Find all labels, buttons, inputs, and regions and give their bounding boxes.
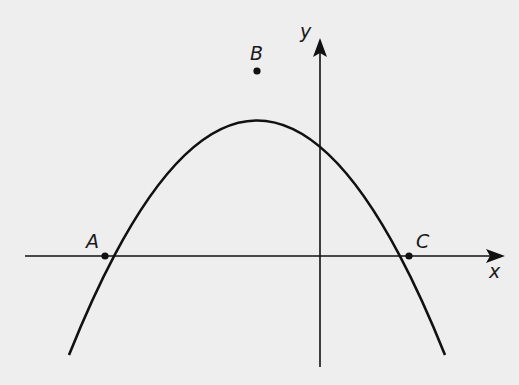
point-a-label: A (86, 232, 99, 251)
parabola-curve (69, 121, 445, 356)
parabola-diagram: A B C y x (0, 0, 519, 385)
x-axis-label: x (489, 262, 500, 281)
point-c-label: C (416, 232, 429, 251)
y-axis-label: y (300, 22, 311, 41)
point-a (101, 252, 108, 259)
point-b (253, 67, 260, 74)
point-b-label: B (250, 44, 263, 63)
point-c (405, 252, 412, 259)
